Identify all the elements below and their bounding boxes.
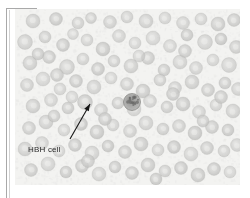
blood-smear-canvas xyxy=(15,9,240,185)
micrograph-plate xyxy=(15,9,240,185)
frame-left-rule xyxy=(6,8,7,198)
micrograph-figure: HBH cell xyxy=(0,0,250,198)
frame-left-rule-secondary xyxy=(9,10,10,198)
